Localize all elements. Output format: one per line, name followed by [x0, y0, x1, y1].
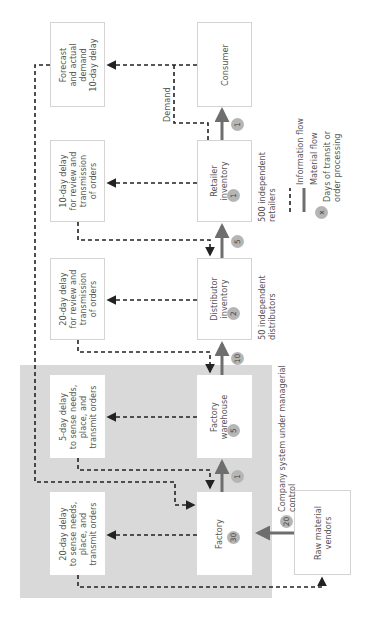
- factory-label: Factory: [214, 519, 224, 549]
- transit-badge: 1: [231, 470, 244, 483]
- factory-delay-box: 20-day delay to sense needs, place, and …: [50, 492, 105, 575]
- distributor-box: Distributor inventory2: [197, 258, 252, 340]
- warehouse-delay-text: 5-day delay to sense needs, place, and t…: [58, 384, 98, 449]
- days-badge: 1: [227, 189, 240, 202]
- vendors-label: Raw material vendors: [313, 506, 333, 560]
- retailer-box: Retailer inventory1: [197, 140, 252, 222]
- days-badge: 5: [227, 424, 240, 437]
- days-badge: 2: [227, 307, 240, 320]
- forecast-delay-text: Forecast and actual demand 10-day delay: [58, 38, 98, 91]
- vendors-box: Raw material vendors: [294, 490, 351, 575]
- consumer-label: Consumer: [220, 44, 230, 86]
- factory-delay-text: 20-day delay to sense needs, place, and …: [58, 501, 98, 566]
- retailers-note: 500 independent retailers: [257, 152, 277, 222]
- warehouse-box: Factory warehouse5: [197, 375, 252, 458]
- retailer-delay-box: 10-day delay for review and transmission…: [50, 140, 105, 222]
- consumer-box: Consumer: [197, 22, 252, 107]
- demand-label: Demand: [162, 87, 172, 122]
- distributor-delay-box: 20-day delay for review and transmission…: [50, 258, 105, 340]
- distributors-note: 50 independent distributors: [257, 275, 277, 340]
- forecast-delay-box: Forecast and actual demand 10-day delay: [50, 22, 105, 107]
- warehouse-delay-box: 5-day delay to sense needs, place, and t…: [50, 375, 105, 458]
- transit-badge: 1: [231, 118, 244, 131]
- retailer-delay-text: 10-day delay for review and transmission…: [58, 152, 98, 211]
- transit-badge: 10: [231, 352, 244, 365]
- company-region-label: Company system under managerial control: [277, 365, 297, 512]
- factory-box: Factory30: [197, 492, 252, 575]
- legend-days-icon: x: [315, 206, 328, 219]
- supply-chain-diagram: Forecast and actual demand 10-day delay …: [0, 0, 369, 617]
- legend-material-flow: Material flow: [309, 132, 319, 185]
- legend-info-flow: Information flow: [295, 118, 305, 185]
- transit-badge: 20: [280, 515, 293, 528]
- transit-badge: 5: [231, 235, 244, 248]
- legend-days: Days of transit or order processing: [322, 131, 342, 202]
- distributor-delay-text: 20-day delay for review and transmission…: [58, 270, 98, 329]
- days-badge: 30: [227, 531, 240, 544]
